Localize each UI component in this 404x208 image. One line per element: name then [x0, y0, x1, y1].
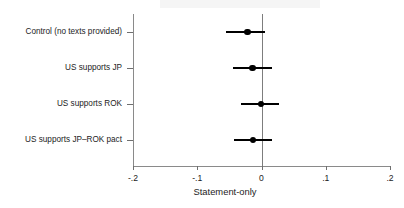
y-axis-tick [127, 32, 133, 33]
x-axis-tick-label: .1 [322, 172, 329, 184]
x-axis-title-text: Statement-only [193, 186, 256, 197]
x-axis-title: Statement-only [0, 186, 404, 197]
category-label: Control (no texts provided) [26, 25, 122, 38]
y-axis-tick [127, 104, 133, 105]
x-axis-tick [390, 166, 391, 170]
x-axis-tick [262, 166, 263, 170]
coefficient-plot-figure: Control (no texts provided) US supports … [0, 0, 404, 208]
x-axis-tick-label: 0 [259, 172, 264, 184]
x-axis-tick-label: -.1 [192, 172, 202, 184]
category-label: US supports JP–ROK pact [25, 133, 122, 146]
cropped-title-remnant [160, 0, 320, 8]
point-estimate-marker [250, 137, 256, 143]
point-estimate-marker [244, 29, 250, 35]
zero-reference-line [262, 14, 263, 166]
x-axis-tick [326, 166, 327, 170]
point-estimate-marker [258, 101, 264, 107]
y-axis-tick [127, 140, 133, 141]
x-axis-tick-label: .2 [386, 172, 393, 184]
x-axis-tick-label: -.2 [128, 172, 138, 184]
x-axis-tick [197, 166, 198, 170]
category-label: US supports ROK [57, 97, 122, 110]
x-axis-tick [133, 166, 134, 170]
point-estimate-marker [249, 65, 255, 71]
y-axis-tick [127, 68, 133, 69]
category-label: US supports JP [65, 61, 122, 74]
y-axis-line [133, 14, 134, 166]
